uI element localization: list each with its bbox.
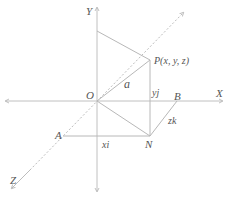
yj-label: yj (151, 87, 159, 98)
y-axis-label: Y (86, 5, 94, 17)
point-a-label: A (54, 129, 62, 141)
y-to-p-line (97, 31, 150, 60)
origin-label: O (86, 89, 94, 101)
vector-a-label: a (124, 77, 130, 91)
zk-label: zk (167, 115, 177, 126)
point-p-label: P(x, y, z) (153, 55, 190, 67)
z-axis-label: Z (10, 174, 17, 186)
x-axis-label: X (215, 87, 224, 99)
point-n-label: N (144, 138, 153, 150)
xi-label: xi (101, 139, 109, 150)
vector-diagram: Y X Z O P(x, y, z) A B N a yj zk xi (0, 0, 230, 198)
o-to-n-line (97, 101, 150, 136)
point-b-label: B (174, 90, 181, 102)
